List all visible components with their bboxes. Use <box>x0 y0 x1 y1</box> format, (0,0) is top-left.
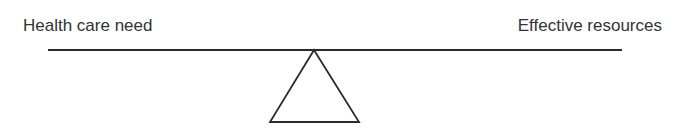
balance-scale-graphic <box>0 0 679 138</box>
fulcrum-triangle-icon <box>270 50 359 122</box>
